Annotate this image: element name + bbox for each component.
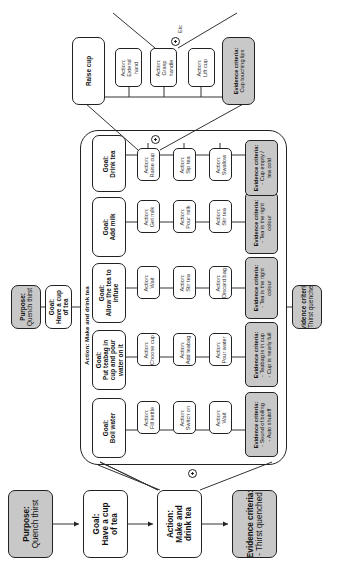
action-label: Stir tea — [185, 274, 191, 292]
evidence-title: Evidence criteria: — [252, 200, 258, 247]
subgoal-put-teabag: Goal:Put teabag incup and pourwater on i… — [92, 330, 126, 390]
action-label: Stir tea — [221, 208, 227, 226]
purpose-text: Quench thirst — [31, 500, 40, 549]
action-label: handle — [167, 59, 173, 76]
evidence-add-milk: Evidence criteria:- Tea is the rightcolo… — [245, 192, 278, 254]
action-label: Raise cup — [149, 152, 155, 177]
action-label: Pour milk — [185, 205, 191, 228]
action-choose-cup[interactable]: Action:Choose cup — [137, 333, 160, 366]
action-title: Action: — [166, 505, 175, 542]
action-text: Make and — [175, 505, 184, 542]
action-label: Switch on — [185, 405, 191, 429]
action-prefix: Action: — [214, 409, 220, 426]
evidence-text: colour — [265, 265, 271, 312]
subgoal-text: Allow the tea to — [105, 269, 112, 316]
evidence-title: Evidence criteria: — [252, 265, 258, 312]
evidence-raise-cup: Evidence criteria:Cup touching lips — [222, 37, 255, 105]
action-wait[interactable]: Action:Wait — [209, 401, 232, 434]
action-label: Discard bag — [221, 268, 227, 298]
evidence-text: - Tea is the right — [258, 200, 264, 247]
subgoal-title: Goal: — [95, 340, 102, 380]
action-lift-cup[interactable]: Action:Lift cup — [188, 48, 215, 87]
subgoal-text: infuse — [113, 269, 120, 316]
zoom-in-icon[interactable] — [188, 469, 197, 478]
action-label: Extend — [125, 59, 131, 76]
action-grasp-handle[interactable]: Action:Grasphandle — [150, 48, 177, 87]
evidence-box: Evidence criteria:- Thirst quenched — [232, 490, 277, 558]
evidence-drink-tea: Evidence criteria:- Cup empty /tea cold — [245, 140, 278, 196]
subgoal-text: Drink tea — [109, 150, 116, 177]
subgoal-title: Goal: — [102, 413, 109, 444]
action-swallow[interactable]: Action:Swallow — [209, 148, 232, 181]
action-box[interactable]: Action:Make anddrink tea — [157, 490, 202, 558]
goal-text: Have a cup — [101, 502, 110, 545]
action-label: Lift cup — [202, 58, 208, 76]
raise-cup-box: Raise cup — [72, 37, 105, 105]
zoom-in-icon[interactable] — [171, 37, 180, 46]
zoom-in-icon[interactable] — [151, 135, 160, 144]
action-fill-kettle[interactable]: Action:Fill kettle — [137, 401, 160, 434]
evidence-text: colour — [265, 200, 271, 247]
evidence-title: Evidence criteria: — [245, 490, 254, 558]
action-add-teabag[interactable]: Action:Add teabag — [173, 333, 196, 366]
action-discard-bag[interactable]: Action:Discard bag — [209, 266, 232, 299]
action-prefix: Action: — [214, 154, 220, 175]
evidence-text: - Auto shutoff — [265, 401, 271, 448]
evidence-infuse: Evidence criteria:- Tea is the rightcolo… — [245, 257, 278, 319]
action-stir-tea-milk[interactable]: Action:Stir tea — [209, 200, 232, 233]
action-label: Grasp — [160, 59, 166, 76]
action-switch-on[interactable]: Action:Switch on — [173, 401, 196, 434]
action-pour-water[interactable]: Action:Pour water — [209, 333, 232, 366]
etc-label: Etc — [177, 25, 183, 33]
subgoal-text: cup and pour — [109, 340, 116, 380]
evidence-title: Evidence criteria: — [252, 145, 258, 192]
evidence-title: Evidence criteria: — [300, 285, 307, 329]
subgoal-text: Put teabag in — [102, 340, 109, 380]
subgoal-title: Goal: — [98, 269, 105, 316]
action-extend-hand[interactable]: Action:Extendhand — [115, 48, 142, 87]
subgoal-text: Add milk — [109, 214, 116, 241]
action-prefix: Action: — [214, 336, 220, 363]
action-label: Sip tea — [185, 156, 191, 173]
action-pour-milk[interactable]: Action:Pour milk — [173, 200, 196, 233]
action-prefix: Action: — [154, 59, 160, 76]
action-prefix: Action: — [214, 208, 220, 226]
action-label: Fill kettle — [149, 406, 155, 428]
action-prefix: Action: — [142, 274, 148, 291]
action-get-milk[interactable]: Action:Get milk — [137, 200, 160, 233]
evidence-title: Evidence criteria: — [252, 331, 258, 378]
evidence-text: tea cold — [265, 145, 271, 192]
subgoal-text: water on it — [116, 340, 123, 380]
action-prefix: Action: — [178, 156, 184, 173]
action-sip-tea[interactable]: Action:Sip tea — [173, 148, 196, 181]
subgoal-text: Boil water — [109, 413, 116, 444]
evidence-title: Evidence criteria: — [252, 401, 258, 448]
goal-box-expanded: Goal:Have a cupof tea — [45, 285, 72, 329]
action-wait-infuse[interactable]: Action:Wait — [137, 266, 160, 299]
action-label: Swallow — [221, 154, 227, 175]
action-label: Wait — [221, 409, 227, 426]
purpose-title: Purpose: — [21, 500, 30, 549]
raise-cup-label: Raise cup — [85, 56, 92, 86]
action-text: drink tea — [184, 505, 193, 542]
goal-title: Goal: — [92, 502, 101, 545]
action-label: Choose cup — [149, 335, 155, 365]
evidence-text: - Thirst quenched — [307, 285, 314, 329]
action-prefix: Action: — [178, 274, 184, 292]
action-prefix: Action: — [195, 58, 201, 76]
goal-text: of tea — [62, 290, 69, 324]
container-label: Action: Make and drink tea — [83, 286, 90, 365]
evidence-text: - Cup is nearly full — [265, 331, 271, 378]
action-prefix: Action: — [142, 406, 148, 428]
evidence-text: Cup touching lips — [239, 48, 245, 95]
subgoal-drink-tea: Goal:Drink tea — [92, 135, 126, 192]
evidence-text: - Cup empty / — [258, 145, 264, 192]
action-raise-cup[interactable]: Action:Raise cup — [137, 148, 160, 181]
subgoal-infuse: Goal:Allow the tea toinfuse — [92, 263, 126, 323]
action-prefix: Action: — [178, 335, 184, 364]
action-stir-tea[interactable]: Action:Stir tea — [173, 266, 196, 299]
evidence-text: - Tea is the right — [258, 265, 264, 312]
action-prefix: Action: — [142, 335, 148, 365]
action-prefix: Action: — [119, 59, 125, 76]
purpose-text: Quench thirst — [26, 288, 33, 326]
